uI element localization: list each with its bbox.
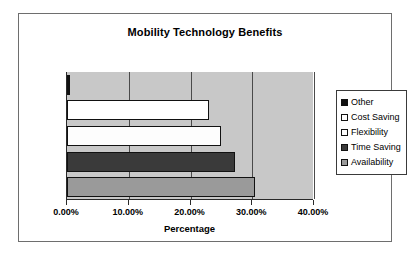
x-tick-label-10: 10.00% bbox=[98, 207, 158, 217]
x-tick-label-20: 20.00% bbox=[160, 207, 220, 217]
legend-label: Flexibility bbox=[351, 128, 388, 137]
bar-other bbox=[67, 75, 70, 95]
empty-square-white-icon bbox=[341, 114, 348, 121]
legend-item-availability: Availability bbox=[341, 155, 401, 170]
x-tick-20 bbox=[190, 200, 191, 205]
gridline-40 bbox=[314, 72, 315, 199]
filled-square-black-icon bbox=[341, 99, 348, 106]
chart-title: Mobility Technology Benefits bbox=[19, 26, 391, 38]
x-tick-10 bbox=[128, 200, 129, 205]
bar-cost-saving bbox=[67, 100, 209, 120]
x-tick-0 bbox=[66, 200, 67, 205]
x-tick-40 bbox=[313, 200, 314, 205]
chart-frame: Mobility Technology Benefits 0.00%10.00%… bbox=[18, 13, 392, 242]
bar-availability bbox=[67, 177, 255, 197]
legend-item-flexibility: Flexibility bbox=[341, 125, 401, 140]
x-tick-label-0: 0.00% bbox=[36, 207, 96, 217]
legend-label: Time Saving bbox=[351, 143, 401, 152]
bar-flexibility bbox=[67, 126, 221, 146]
x-axis-title: Percentage bbox=[66, 223, 313, 234]
bars-group bbox=[67, 72, 313, 199]
x-tick-label-40: 40.00% bbox=[283, 207, 343, 217]
filled-square-dark-gray-icon bbox=[341, 144, 348, 151]
empty-square-white-icon bbox=[341, 129, 348, 136]
legend-item-other: Other bbox=[341, 95, 401, 110]
legend-item-time-saving: Time Saving bbox=[341, 140, 401, 155]
plot-area bbox=[66, 72, 313, 200]
filled-square-gray-icon bbox=[341, 159, 348, 166]
legend-label: Availability bbox=[351, 158, 393, 167]
legend-label: Cost Saving bbox=[351, 113, 400, 122]
x-tick-30 bbox=[251, 200, 252, 205]
chart-legend: OtherCost SavingFlexibilityTime SavingAv… bbox=[336, 90, 407, 175]
bar-time-saving bbox=[67, 152, 235, 172]
x-tick-label-30: 30.00% bbox=[221, 207, 281, 217]
legend-label: Other bbox=[351, 98, 374, 107]
legend-item-cost-saving: Cost Saving bbox=[341, 110, 401, 125]
